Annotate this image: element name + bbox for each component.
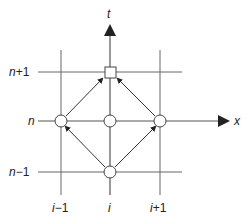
arrow-bottom-to-left xyxy=(65,126,105,167)
stencil-diagram: t x n+1 n n−1 i−1 i i+1 xyxy=(0,0,251,223)
arrow-bottom-to-right xyxy=(115,126,156,167)
row-label-n-minus-1: n−1 xyxy=(9,165,30,179)
row-label-n-plus-1-rest: +1 xyxy=(16,65,30,79)
arrow-left-to-top xyxy=(66,78,103,116)
t-axis-label: t xyxy=(107,7,111,21)
row-label-n-minus-1-rest: −1 xyxy=(16,165,30,179)
col-label-i-plus-1-rest: +1 xyxy=(153,201,167,215)
node-i-plus-1-n xyxy=(154,115,166,127)
node-i-minus-1-n xyxy=(55,115,67,127)
row-label-n-var: n xyxy=(28,114,35,128)
col-label-i-plus-1: i+1 xyxy=(150,201,167,215)
col-label-i: i xyxy=(108,201,111,215)
node-i-n xyxy=(104,115,116,127)
col-label-i-var: i xyxy=(108,201,111,215)
arrow-right-to-top xyxy=(117,78,155,116)
node-i-n-minus-1 xyxy=(104,166,116,178)
t-axis-arrowhead-icon xyxy=(104,24,116,36)
axes xyxy=(38,34,220,195)
row-label-n-plus-1: n+1 xyxy=(9,65,30,79)
x-axis-arrowhead-icon xyxy=(218,115,230,127)
x-axis-label: x xyxy=(233,114,241,128)
col-label-i-minus-1-rest: −1 xyxy=(55,201,69,215)
row-label-n: n xyxy=(28,114,35,128)
node-i-n-plus-1 xyxy=(105,67,116,78)
col-label-i-minus-1: i−1 xyxy=(52,201,69,215)
